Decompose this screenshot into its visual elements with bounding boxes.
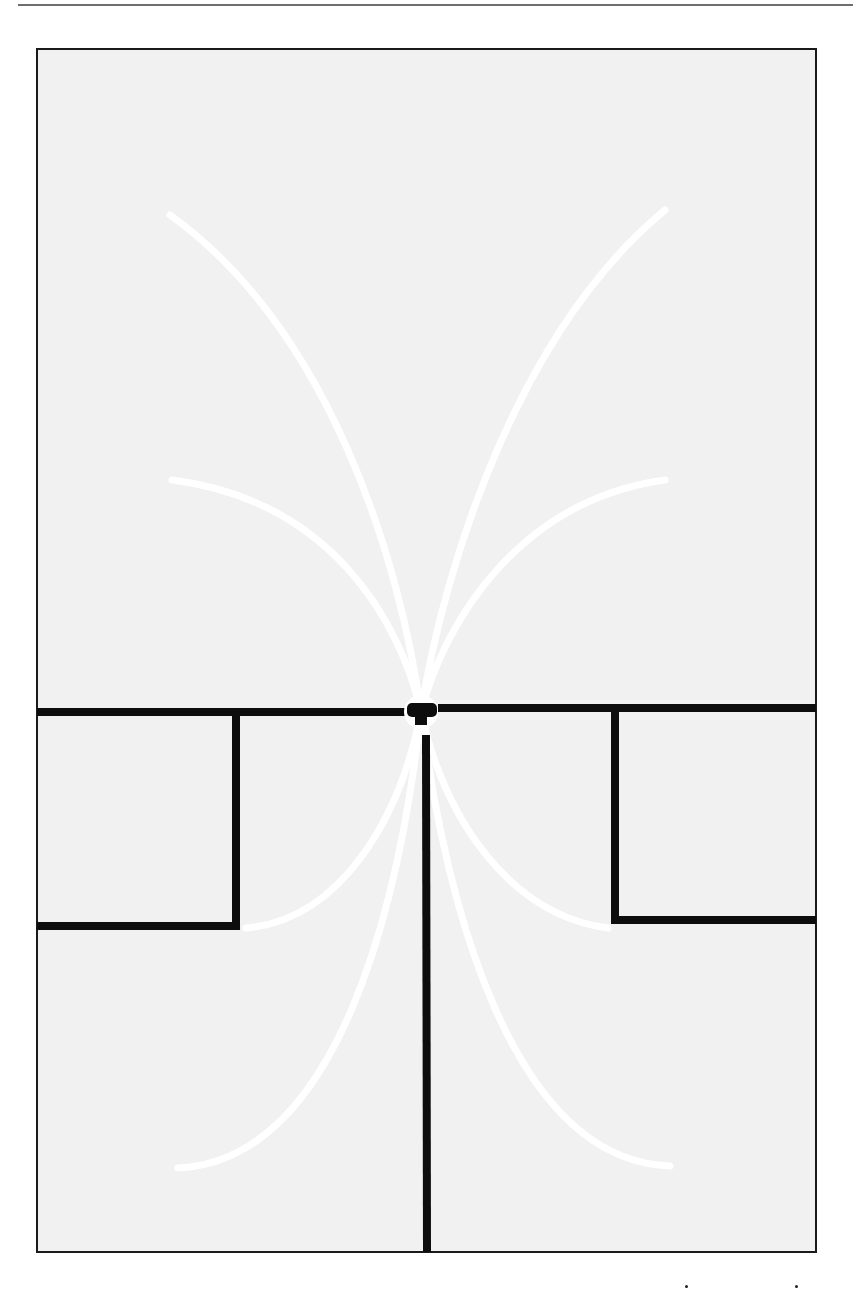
page-speck — [685, 1285, 688, 1288]
center-stem — [426, 735, 427, 1252]
source-stem-icon — [415, 713, 427, 725]
ray-diagram — [0, 0, 853, 1293]
page-speck — [795, 1285, 798, 1288]
source-marker — [404, 695, 438, 729]
